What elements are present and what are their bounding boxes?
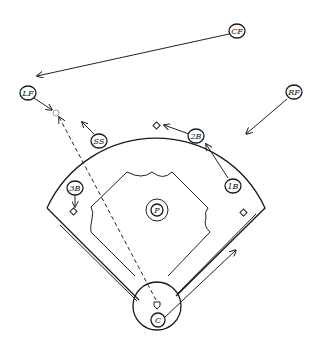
player-label: 3B xyxy=(70,184,81,193)
player-label: CF xyxy=(231,27,243,36)
first-base xyxy=(240,209,247,216)
rf-arrow xyxy=(246,99,287,134)
third-base-line xyxy=(60,225,137,301)
baseball-field-diagram: CF LF RF SS 2B 1B 3B P C xyxy=(0,0,323,348)
player-label: 1B xyxy=(228,182,239,191)
player-label: SS xyxy=(94,137,105,146)
player-label: 2B xyxy=(190,132,202,141)
player-label: P xyxy=(153,206,160,215)
lf-arrow xyxy=(34,98,52,110)
player-1b: 1B xyxy=(225,179,241,193)
cf-arrow xyxy=(37,34,229,76)
player-label: C xyxy=(155,316,161,325)
2b-arrow xyxy=(164,125,189,134)
ball-icon xyxy=(53,110,59,116)
player-2b: 2B xyxy=(188,129,204,143)
home-plate-area-cover xyxy=(145,288,169,298)
player-c: C xyxy=(151,313,165,327)
1b-arrow xyxy=(206,144,228,178)
player-lf: LF xyxy=(20,86,36,100)
infield-grass-outline xyxy=(91,172,210,276)
player-label: LF xyxy=(22,89,34,98)
player-cf: CF xyxy=(229,24,245,38)
player-label: RF xyxy=(287,88,300,97)
player-3b: 3B xyxy=(67,181,83,195)
c-arrow xyxy=(164,250,236,318)
ss-arrow xyxy=(82,122,94,134)
infield-dirt-outline xyxy=(47,138,265,300)
third-base xyxy=(70,208,77,215)
player-p: P xyxy=(151,204,163,216)
player-ss: SS xyxy=(91,134,107,148)
player-rf: RF xyxy=(286,85,302,99)
second-base xyxy=(153,122,160,129)
home-plate xyxy=(154,302,160,309)
